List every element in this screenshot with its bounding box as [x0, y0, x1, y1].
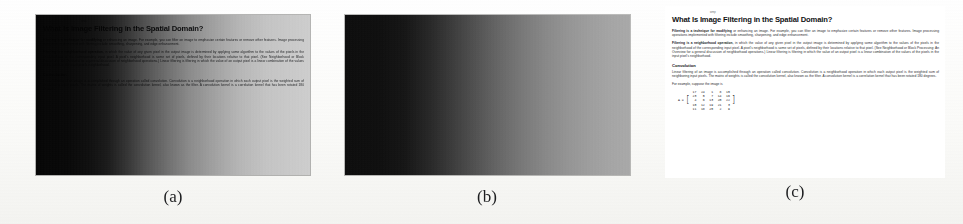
document-paragraph-2-c: Filtering is a neighborhood operation, i…	[672, 41, 939, 58]
document-page-c: wmp What Is Image Filtering in the Spati…	[665, 6, 945, 178]
document-example-text-c: For example, suppose the image is	[672, 82, 939, 86]
document-header-note-a: wmp	[81, 20, 304, 23]
document-section-text-a: Linear filtering of an image is accompli…	[43, 79, 304, 92]
matrix-cell: 2	[715, 107, 723, 111]
matrix-values-table: 1724181523571416461320221012192131118252…	[690, 90, 732, 112]
document-paragraph-2-a: Filtering is a neighborhood operation, i…	[43, 50, 304, 67]
panel-c-image-frame: wmp What Is Image Filtering in the Spati…	[665, 6, 945, 178]
caption-c: (c)	[765, 182, 825, 202]
matrix-cell: 18	[698, 107, 706, 111]
matrix-variable-label: A =	[678, 98, 684, 102]
panel-b-image-frame	[345, 15, 630, 175]
figure-container: wmp What Is Image Filtering in the Spati…	[0, 0, 963, 224]
matrix-A: A = [ 1724181523571416461320221012192131…	[678, 90, 939, 112]
document-section-heading-a: Convolution	[43, 72, 304, 77]
document-page-a: wmp What Is Image Filtering in the Spati…	[36, 15, 310, 175]
document-section-text-c: Linear filtering of an image is accompli…	[672, 70, 939, 79]
matrix-cell: 11	[690, 107, 698, 111]
caption-b: (b)	[457, 187, 517, 207]
document-section-heading-c: Convolution	[672, 63, 939, 68]
scan-noise-overlay-b	[345, 15, 630, 175]
matrix-row: 11182529	[690, 107, 732, 111]
document-header-note-c: wmp	[710, 11, 939, 14]
document-paragraph-1-a: Filtering is a technique for modifying o…	[43, 38, 304, 47]
document-paragraph-1-c: Filtering is a technique for modifying o…	[672, 29, 939, 38]
matrix-cell: 9	[723, 107, 731, 111]
document-title-c: What Is Image Filtering in the Spatial D…	[672, 15, 939, 24]
panel-a-image-frame: wmp What Is Image Filtering in the Spati…	[36, 15, 310, 175]
document-title-a: What Is Image Filtering in the Spatial D…	[43, 24, 304, 33]
matrix-cell: 25	[706, 107, 714, 111]
matrix-left-bracket: [	[686, 96, 689, 105]
matrix-right-bracket: ]	[732, 96, 735, 105]
caption-a: (a)	[143, 187, 203, 207]
